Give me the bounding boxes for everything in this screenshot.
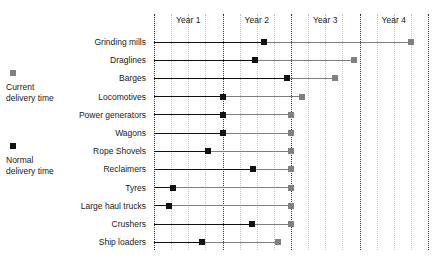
marker-normal-delivery [199,239,205,245]
delivery-time-chart: Current delivery time Normal delivery ti… [0,0,441,258]
marker-current-delivery [288,112,294,118]
bar-segment-current [255,60,354,61]
bar-segment-current [169,205,291,206]
marker-current-delivery [351,57,357,63]
bar-row: Tyres [154,180,441,196]
legend-label-current: Current delivery time [6,82,76,103]
marker-normal-delivery [252,57,258,63]
marker-current-delivery [275,239,281,245]
bar-row: Barges [154,70,441,86]
legend-label-normal: Normal delivery time [6,155,76,176]
category-label: Grinding mills [95,34,147,50]
marker-current-delivery [288,130,294,136]
category-label: Power generators [79,107,146,123]
bar-row: Power generators [154,107,441,123]
bar-segment-current [252,224,291,225]
marker-normal-delivery [261,39,267,45]
black-square-icon [10,143,16,149]
marker-current-delivery [408,39,414,45]
bar-segment-current [202,242,278,243]
bar-row: Rope Shovels [154,143,441,159]
marker-normal-delivery [220,94,226,100]
bar-segment-normal [154,151,208,152]
bar-segment-normal [154,114,223,115]
bar-segment-current [208,151,291,152]
plot-area: Year 1Year 2Year 3Year 4 Grinding millsD… [154,14,428,250]
bar-row: Draglines [154,52,441,68]
category-label: Draglines [110,52,146,68]
bar-segment-current [223,133,292,134]
marker-current-delivery [288,148,294,154]
marker-current-delivery [332,75,338,81]
marker-normal-delivery [220,112,226,118]
marker-normal-delivery [205,148,211,154]
bar-segment-normal [154,169,253,170]
bar-row: Locomotives [154,89,441,105]
category-label: Crushers [112,216,146,232]
legend-item-current: Current delivery time [6,70,76,103]
bar-rows: Grinding millsDraglinesBargesLocomotives… [154,14,428,250]
legend-normal-line2: delivery time [6,166,76,177]
bar-segment-current [264,42,411,43]
marker-normal-delivery [284,75,290,81]
category-label: Locomotives [98,89,146,105]
bar-segment-current [173,187,291,188]
marker-current-delivery [288,221,294,227]
marker-current-delivery [288,166,294,172]
bar-row: Crushers [154,216,441,232]
marker-current-delivery [299,94,305,100]
marker-current-delivery [288,185,294,191]
bar-segment-normal [154,42,264,43]
bar-segment-current [223,96,302,97]
legend-item-normal: Normal delivery time [6,143,76,176]
bar-segment-normal [154,133,223,134]
marker-normal-delivery [249,221,255,227]
bar-segment-normal [154,224,252,225]
legend-current-line2: delivery time [6,93,76,104]
category-label: Large haul trucks [81,198,146,214]
bar-row: Reclaimers [154,161,441,177]
bar-segment-current [253,169,291,170]
bar-segment-normal [154,78,287,79]
bar-segment-normal [154,60,255,61]
bar-row: Large haul trucks [154,198,441,214]
marker-normal-delivery [166,203,172,209]
category-label: Rope Shovels [93,143,146,159]
category-label: Ship loaders [99,234,146,250]
marker-normal-delivery [170,185,176,191]
gray-square-icon [10,70,16,76]
bar-segment-normal [154,96,223,97]
bar-row: Wagons [154,125,441,141]
bar-row: Ship loaders [154,234,441,250]
category-label: Wagons [115,125,146,141]
marker-normal-delivery [250,166,256,172]
category-label: Tyres [125,180,146,196]
category-label: Barges [119,70,146,86]
category-label: Reclaimers [103,161,146,177]
bar-row: Grinding mills [154,34,441,50]
marker-normal-delivery [220,130,226,136]
legend-normal-line1: Normal [6,155,76,166]
bar-segment-current [287,78,335,79]
legend-current-line1: Current [6,82,76,93]
bar-segment-normal [154,242,202,243]
marker-current-delivery [288,203,294,209]
bar-segment-current [223,114,292,115]
